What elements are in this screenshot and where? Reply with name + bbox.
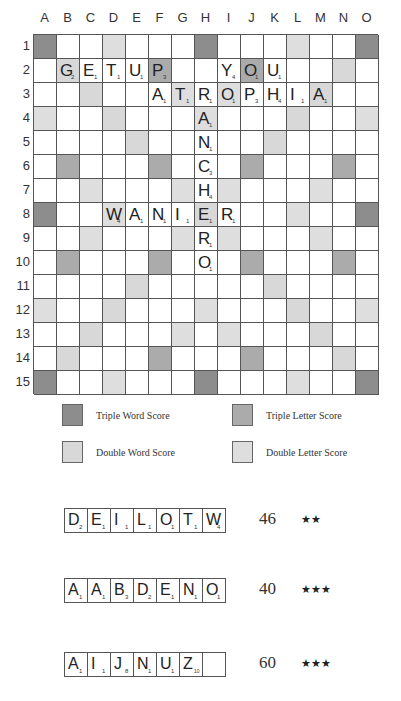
- board-cell-B9[interactable]: [57, 227, 80, 251]
- board-cell-K2[interactable]: U1: [264, 59, 287, 83]
- board-cell-G6[interactable]: [172, 155, 195, 179]
- board-cell-A10[interactable]: [34, 251, 57, 275]
- board-cell-H10[interactable]: O1: [195, 251, 218, 275]
- board-cell-G8[interactable]: I1: [172, 203, 195, 227]
- board-cell-E4[interactable]: [126, 107, 149, 131]
- board-cell-N2[interactable]: [333, 59, 356, 83]
- board-cell-E15[interactable]: [126, 371, 149, 395]
- board-cell-O13[interactable]: [356, 323, 379, 347]
- rack-tile[interactable]: A1: [65, 579, 88, 602]
- board-cell-A5[interactable]: [34, 131, 57, 155]
- board-cell-H4[interactable]: A1: [195, 107, 218, 131]
- board-cell-N15[interactable]: [333, 371, 356, 395]
- board-cell-F5[interactable]: [149, 131, 172, 155]
- board-cell-D14[interactable]: [103, 347, 126, 371]
- board-cell-N7[interactable]: [333, 179, 356, 203]
- board-cell-I10[interactable]: [218, 251, 241, 275]
- board-cell-E1[interactable]: [126, 35, 149, 59]
- rack-tile[interactable]: A1: [88, 579, 111, 602]
- board-cell-J7[interactable]: [241, 179, 264, 203]
- rack-tile[interactable]: N1: [180, 579, 203, 602]
- board-cell-N9[interactable]: [333, 227, 356, 251]
- board-cell-C14[interactable]: [80, 347, 103, 371]
- board-cell-K9[interactable]: [264, 227, 287, 251]
- board-cell-M3[interactable]: A1: [310, 83, 333, 107]
- board-cell-D3[interactable]: [103, 83, 126, 107]
- board-cell-J12[interactable]: [241, 299, 264, 323]
- board-cell-A6[interactable]: [34, 155, 57, 179]
- board-cell-F7[interactable]: [149, 179, 172, 203]
- board-cell-K6[interactable]: [264, 155, 287, 179]
- board-cell-M14[interactable]: [310, 347, 333, 371]
- board-cell-E13[interactable]: [126, 323, 149, 347]
- board-cell-M2[interactable]: [310, 59, 333, 83]
- board-cell-D6[interactable]: [103, 155, 126, 179]
- rack-tile[interactable]: O1: [203, 579, 226, 602]
- board-cell-H14[interactable]: [195, 347, 218, 371]
- board-cell-N14[interactable]: [333, 347, 356, 371]
- board-cell-G10[interactable]: [172, 251, 195, 275]
- board-cell-K13[interactable]: [264, 323, 287, 347]
- board-cell-J13[interactable]: [241, 323, 264, 347]
- board-cell-F12[interactable]: [149, 299, 172, 323]
- board-cell-K3[interactable]: H4: [264, 83, 287, 107]
- board-cell-K4[interactable]: [264, 107, 287, 131]
- rack-tile[interactable]: O1: [157, 509, 180, 532]
- board-cell-F9[interactable]: [149, 227, 172, 251]
- board-cell-K14[interactable]: [264, 347, 287, 371]
- board-cell-C4[interactable]: [80, 107, 103, 131]
- board-cell-L2[interactable]: [287, 59, 310, 83]
- board-cell-D12[interactable]: [103, 299, 126, 323]
- board-cell-F11[interactable]: [149, 275, 172, 299]
- board-cell-O3[interactable]: [356, 83, 379, 107]
- rack-tile[interactable]: L1: [134, 509, 157, 532]
- board-cell-L3[interactable]: I1: [287, 83, 310, 107]
- board-cell-G2[interactable]: [172, 59, 195, 83]
- board-cell-B5[interactable]: [57, 131, 80, 155]
- rack-tile[interactable]: U1: [157, 653, 180, 676]
- board-cell-N10[interactable]: [333, 251, 356, 275]
- rack-tile[interactable]: J8: [111, 653, 134, 676]
- board-cell-D5[interactable]: [103, 131, 126, 155]
- board-cell-F2[interactable]: P3: [149, 59, 172, 83]
- board-cell-M12[interactable]: [310, 299, 333, 323]
- board-cell-H15[interactable]: [195, 371, 218, 395]
- board-cell-M9[interactable]: [310, 227, 333, 251]
- board-cell-J5[interactable]: [241, 131, 264, 155]
- board-cell-J4[interactable]: [241, 107, 264, 131]
- board-cell-F3[interactable]: A1: [149, 83, 172, 107]
- board-cell-G7[interactable]: [172, 179, 195, 203]
- board-cell-O8[interactable]: [356, 203, 379, 227]
- board-cell-O7[interactable]: [356, 179, 379, 203]
- rack-tile[interactable]: D2: [134, 579, 157, 602]
- rack-tile[interactable]: T1: [180, 509, 203, 532]
- board-cell-H11[interactable]: [195, 275, 218, 299]
- board-cell-G1[interactable]: [172, 35, 195, 59]
- board-cell-B10[interactable]: [57, 251, 80, 275]
- board-cell-J9[interactable]: [241, 227, 264, 251]
- board-cell-O2[interactable]: [356, 59, 379, 83]
- board-cell-F13[interactable]: [149, 323, 172, 347]
- board-cell-F10[interactable]: [149, 251, 172, 275]
- rack-tile[interactable]: D2: [65, 509, 88, 532]
- board-cell-D13[interactable]: [103, 323, 126, 347]
- board-cell-I5[interactable]: [218, 131, 241, 155]
- board-cell-K12[interactable]: [264, 299, 287, 323]
- board-cell-J8[interactable]: [241, 203, 264, 227]
- board-cell-O12[interactable]: [356, 299, 379, 323]
- board-cell-A7[interactable]: [34, 179, 57, 203]
- board-cell-F8[interactable]: N1: [149, 203, 172, 227]
- board-cell-B7[interactable]: [57, 179, 80, 203]
- board-cell-B12[interactable]: [57, 299, 80, 323]
- board-cell-N13[interactable]: [333, 323, 356, 347]
- board-cell-D15[interactable]: [103, 371, 126, 395]
- board-cell-H8[interactable]: E1: [195, 203, 218, 227]
- board-cell-B6[interactable]: [57, 155, 80, 179]
- board-cell-N1[interactable]: [333, 35, 356, 59]
- board-cell-L10[interactable]: [287, 251, 310, 275]
- board-cell-K5[interactable]: [264, 131, 287, 155]
- board-cell-F1[interactable]: [149, 35, 172, 59]
- board-cell-A13[interactable]: [34, 323, 57, 347]
- board-cell-G9[interactable]: [172, 227, 195, 251]
- board-cell-O14[interactable]: [356, 347, 379, 371]
